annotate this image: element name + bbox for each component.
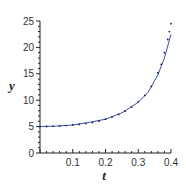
series-point-approx [39,126,41,128]
y-axis-label: y [7,78,15,93]
x-axis-label: t [102,168,106,183]
series-point-approx [157,72,159,74]
series-point-approx [131,106,133,108]
series-point-approx [46,126,48,128]
series-point-approx [78,123,80,125]
series-point-approx [124,110,126,112]
x-tick-label: 0.1 [66,157,80,168]
series-point-approx [170,23,172,25]
series-point-approx [167,39,169,41]
series-point-approx [150,86,152,88]
series-line-exact [40,34,171,126]
x-tick-label: 0.3 [131,157,145,168]
series-layer [39,23,172,128]
series-point-approx [72,124,74,126]
y-tick-label: 15 [23,68,35,79]
y-tick-label: 0 [28,148,34,159]
series-point-approx [164,52,166,54]
series-point-approx [118,114,120,116]
ticks: 0.10.20.30.40510152025 [23,16,179,169]
series-point-approx [144,95,146,97]
series-point-approx [105,118,107,120]
x-tick-label: 0.4 [164,157,178,168]
series-point-approx [59,125,61,127]
y-tick-label: 5 [28,121,34,132]
series-point-approx [92,122,94,124]
series-point-approx [137,101,139,103]
series-point-approx [160,63,162,65]
y-tick-label: 10 [23,95,35,106]
chart: 0.10.20.30.40510152025 t y [0,0,186,191]
y-tick-label: 20 [23,42,35,53]
series-point-approx [65,125,67,127]
y-tick-label: 25 [23,16,35,27]
series-point-approx [52,125,54,127]
series-point-approx [168,31,170,33]
series-point-approx [98,120,100,122]
x-tick-label: 0.2 [99,157,113,168]
series-point-approx [85,123,87,125]
series-point-approx [111,116,113,118]
